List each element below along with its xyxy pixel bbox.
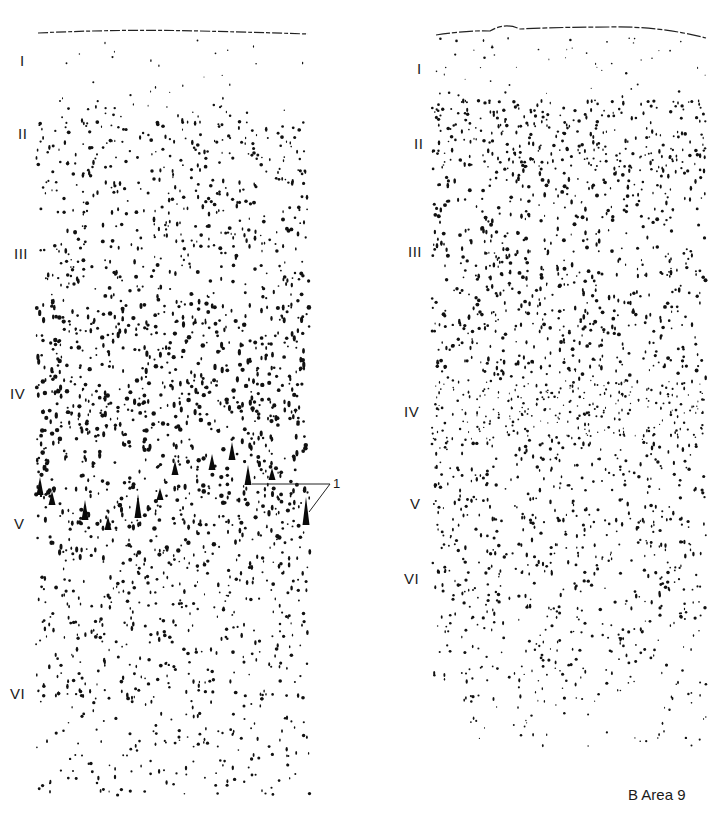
left-layer-label-vi: VI <box>10 685 25 702</box>
figure-caption: B Area 9 <box>628 786 686 803</box>
right-layer-label-ii: II <box>414 135 423 152</box>
left-layer-label-iv: IV <box>10 385 25 402</box>
cortical-layers-figure: I II III IV V VI I II III IV V VI 1 B Ar… <box>0 0 724 817</box>
right-layer-label-i: I <box>417 60 422 77</box>
nissl-stain-illustration <box>0 0 724 817</box>
left-layer-label-v: V <box>14 515 25 532</box>
left-layer-label-ii: II <box>18 125 27 142</box>
right-layer-label-v: V <box>410 495 421 512</box>
callout-label-betz-cells: 1 <box>333 476 340 491</box>
right-layer-label-iii: III <box>408 243 422 260</box>
right-layer-label-vi: VI <box>404 570 419 587</box>
left-layer-label-i: I <box>20 52 25 69</box>
right-layer-label-iv: IV <box>404 403 419 420</box>
left-layer-label-iii: III <box>14 245 28 262</box>
